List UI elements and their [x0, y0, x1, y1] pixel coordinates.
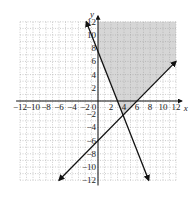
x-tick-label: 8 [148, 102, 153, 112]
y-tick-label: −4 [86, 122, 96, 132]
x-tick-label: −12 [13, 102, 27, 112]
coordinate-plane: −12−10−8−6−4−202468101212108642−2−4−6−8−… [0, 0, 193, 201]
y-tick-label: −12 [82, 175, 96, 185]
x-tick-label: −4 [67, 102, 77, 112]
x-tick-label: −6 [54, 102, 64, 112]
y-axis-label: y [89, 9, 94, 19]
y-tick-label: −6 [86, 136, 96, 146]
x-tick-label: 10 [159, 102, 169, 112]
x-tick-label: 4 [122, 102, 127, 112]
y-tick-label: −8 [86, 149, 96, 159]
x-tick-label: −10 [26, 102, 41, 112]
y-tick-label: 6 [92, 56, 97, 66]
x-axis-label: x [183, 103, 188, 113]
x-tick-label: 2 [109, 102, 114, 112]
y-tick-label: 10 [87, 30, 97, 40]
y-tick-label: 2 [92, 83, 97, 93]
x-tick-label: −8 [41, 102, 51, 112]
x-tick-label: 12 [172, 102, 181, 112]
y-tick-label: 4 [92, 70, 97, 80]
x-tick-label: 6 [135, 102, 140, 112]
y-tick-label: 8 [92, 43, 97, 53]
y-tick-label: −10 [82, 162, 97, 172]
y-tick-label: −2 [86, 109, 96, 119]
